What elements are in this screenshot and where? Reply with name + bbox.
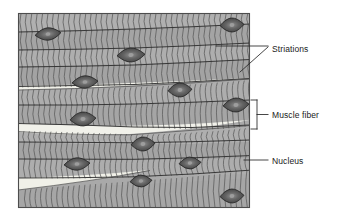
leader-muscle-fiber xyxy=(251,100,268,129)
figure-canvas: Striations Muscle fiber Nucleus xyxy=(0,0,340,220)
label-nucleus: Nucleus xyxy=(272,156,303,166)
label-striations: Striations xyxy=(272,44,308,54)
label-muscle-fiber: Muscle fiber xyxy=(272,110,319,120)
